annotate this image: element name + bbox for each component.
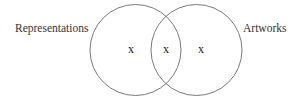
representations-only-mark: x [128, 43, 134, 55]
artworks-label: Artworks [243, 23, 286, 35]
venn-diagram [0, 0, 298, 102]
representations-label: Representations [15, 23, 88, 35]
artworks-only-mark: x [198, 43, 204, 55]
intersection-mark: x [163, 43, 169, 55]
